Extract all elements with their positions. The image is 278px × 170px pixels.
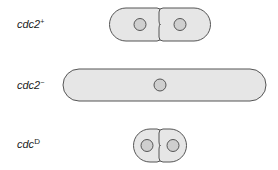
nucleus-elongated — [154, 79, 166, 91]
nucleus-right-wild-type — [174, 19, 186, 31]
cell-pair-dominant — [134, 129, 187, 162]
cell-diagram — [0, 0, 278, 170]
nucleus-left-wild-type — [134, 19, 146, 31]
cell-pair-wild-type — [110, 8, 211, 41]
cell-elongated-loss-of-function — [63, 69, 266, 101]
nucleus-right-dominant — [167, 140, 179, 152]
nucleus-left-dominant — [141, 140, 153, 152]
